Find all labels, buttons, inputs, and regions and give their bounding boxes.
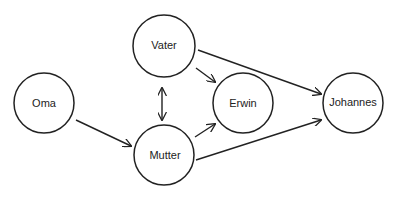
node-label: Oma <box>32 97 57 109</box>
node-label: Erwin <box>229 97 257 109</box>
edge-oma-mutter <box>76 120 131 146</box>
node-mutter: Mutter <box>134 125 194 185</box>
edge-vater-erwin <box>196 68 215 82</box>
edge-mutter-erwin <box>195 124 215 137</box>
node-label: Johannes <box>329 96 377 108</box>
node-oma: Oma <box>14 73 74 133</box>
node-label: Mutter <box>149 149 181 161</box>
node-erwin: Erwin <box>213 73 273 133</box>
node-vater: Vater <box>133 15 195 77</box>
family-diagram: Oma Vater Mutter Erwin Johannes <box>0 0 394 203</box>
edges <box>76 50 321 160</box>
node-johannes: Johannes <box>323 73 383 133</box>
node-label: Vater <box>151 39 177 51</box>
